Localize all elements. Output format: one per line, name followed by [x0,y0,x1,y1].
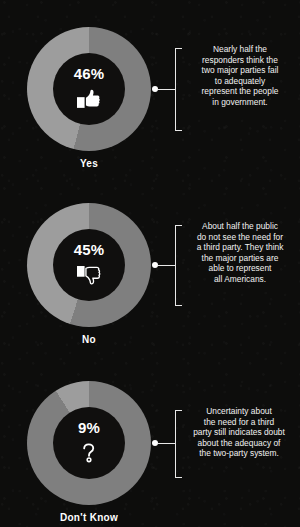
callout-stem-no [158,265,175,266]
callout-tick-bottom-yes [175,130,182,131]
callout-bracket-yes [175,48,176,130]
stat-block-no: 45% No About half the public do not see … [0,180,300,358]
callout-bracket-dont-know [175,410,176,477]
callout-yes: Nearly half the responders think the two… [0,0,300,180]
callout-tick-top-no [175,225,182,226]
callout-text-dont-know: Uncertainty about the need for a third p… [180,406,298,459]
callout-stem-dont-know [158,443,175,444]
callout-text-no: About half the public do not see the nee… [182,221,298,285]
callout-tick-bottom-dont-know [175,477,182,478]
callout-stem-yes [158,89,175,90]
callout-bracket-no [175,225,176,305]
infographic-root: 46% Yes Nearly half the responders think… [0,0,300,527]
callout-no: About half the public do not see the nee… [0,180,300,358]
callout-dont-know: Uncertainty about the need for a third p… [0,358,300,527]
stat-block-yes: 46% Yes Nearly half the responders think… [0,0,300,180]
callout-tick-top-yes [175,48,182,49]
callout-text-yes: Nearly half the responders think the two… [184,44,296,108]
stat-block-dont-know: 9% Don't Know Uncertainty about the need… [0,358,300,527]
callout-tick-bottom-no [175,305,182,306]
